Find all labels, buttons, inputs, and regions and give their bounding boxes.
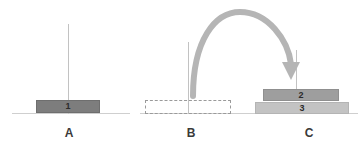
peg-label-C: C (302, 127, 316, 139)
peg-label-B: B (184, 127, 198, 139)
hanoi-diagram: 1 A B 2 3 C (0, 0, 359, 154)
disk-3-label: 3 (299, 104, 304, 113)
move-arrow-curve (193, 12, 291, 96)
disk-2-label: 2 (298, 91, 303, 100)
disk-2[interactable]: 2 (263, 89, 339, 101)
ghost-disk-outline-B (145, 100, 231, 114)
ground-line-A (12, 113, 130, 114)
disk-3[interactable]: 3 (255, 102, 349, 114)
disk-1[interactable]: 1 (36, 100, 100, 113)
disk-1-label: 1 (65, 102, 70, 111)
peg-label-A: A (62, 127, 76, 139)
move-arrow-head-icon (282, 62, 300, 80)
